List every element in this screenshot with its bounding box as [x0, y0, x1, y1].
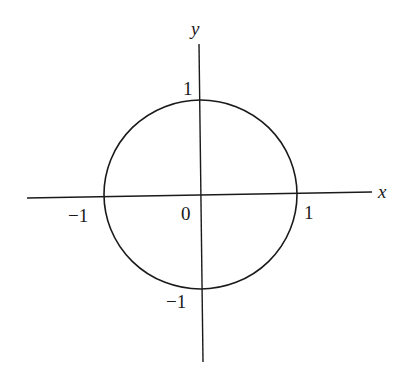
- y-axis-label: y: [189, 18, 200, 39]
- unit-circle-diagram: y x 1 −1 0 1 −1: [0, 0, 408, 374]
- y-axis: [199, 44, 203, 362]
- tick-label-x-neg: −1: [68, 205, 88, 226]
- tick-label-origin: 0: [181, 203, 191, 224]
- tick-label-y-neg: −1: [166, 291, 186, 312]
- x-axis-label: x: [377, 181, 387, 202]
- x-axis: [27, 192, 372, 198]
- tick-label-x-pos: 1: [304, 202, 314, 223]
- tick-label-y-pos: 1: [183, 78, 193, 99]
